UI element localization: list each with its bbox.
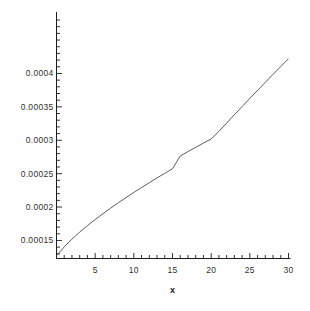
x-axis-title: x — [143, 285, 203, 295]
y-tick-label-2: 0.00025 — [21, 169, 54, 179]
x-tick-label-4: 25 — [230, 265, 270, 275]
y-tick-label-0: 0.00015 — [21, 235, 54, 245]
y-tick-label-4: 0.00035 — [21, 102, 54, 112]
x-tick-label-3: 20 — [191, 265, 231, 275]
x-tick-label-0: 5 — [75, 265, 115, 275]
y-tick-label-5: 0.0004 — [26, 68, 54, 78]
x-tick-label-2: 15 — [153, 265, 193, 275]
axes-group — [57, 12, 291, 259]
data-series-line — [57, 59, 289, 256]
x-tick-label-1: 10 — [114, 265, 154, 275]
plot-figure: x 0.000150.00020.000250.00030.000350.000… — [0, 0, 310, 311]
y-tick-label-3: 0.0003 — [26, 135, 54, 145]
x-tick-label-5: 30 — [269, 265, 309, 275]
y-tick-label-1: 0.0002 — [26, 202, 54, 212]
